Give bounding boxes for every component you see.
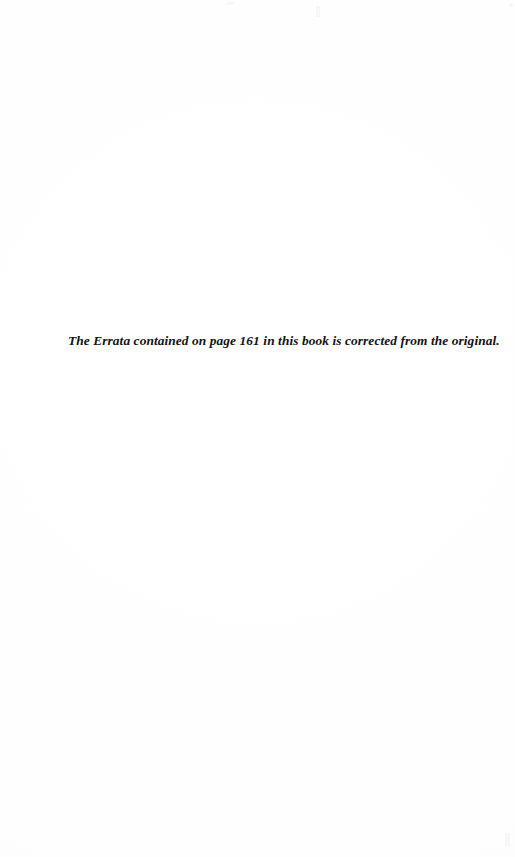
scan-artifact-speck [316,6,320,17]
scan-artifact-speck [227,2,234,5]
scanned-page: The Errata contained on page 161 in this… [0,0,515,857]
paper-background [0,0,515,857]
scan-artifact-speck [505,833,510,846]
errata-note: The Errata contained on page 161 in this… [68,331,448,350]
scan-artifact-speck [509,3,513,7]
